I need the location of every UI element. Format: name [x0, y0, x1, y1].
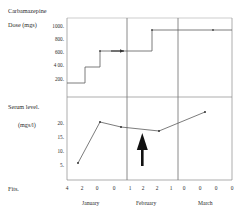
serum-point-5: [204, 111, 206, 113]
month-label-february: February: [136, 200, 156, 206]
fits-count-8: 0: [177, 185, 191, 191]
serum-point-1: [77, 162, 79, 164]
dose-point-600: [99, 50, 101, 52]
dose-step-line: [67, 30, 232, 83]
month-label-march: March: [198, 200, 213, 206]
fits-count-11: 0: [225, 185, 239, 191]
fits-count-2: 0: [90, 185, 104, 191]
chart-vector-layer: [0, 0, 249, 216]
month-label-january: January: [82, 200, 99, 206]
fits-count-1: 2: [75, 185, 89, 191]
figure-canvas: Carbamazepine Dose (mgs) Serum level. (m…: [0, 0, 249, 216]
dose-point-850: [151, 29, 153, 31]
fits-count-9: 0: [193, 185, 207, 191]
serum-point-2: [99, 121, 101, 123]
fits-count-0: 4: [60, 185, 74, 191]
serum-upward-arrow-icon: [137, 133, 148, 166]
fits-count-5: 2: [136, 185, 150, 191]
fits-count-7: 1: [164, 185, 178, 191]
dose-point-plateau: [212, 29, 214, 31]
fits-count-10: 0: [209, 185, 223, 191]
serum-point-3: [120, 126, 122, 128]
fits-count-4: 1: [123, 185, 137, 191]
fits-count-3: 0: [107, 185, 121, 191]
fits-count-6: 2: [150, 185, 164, 191]
serum-point-4: [158, 130, 160, 132]
dose-plateau-arrow-icon: [111, 49, 124, 53]
